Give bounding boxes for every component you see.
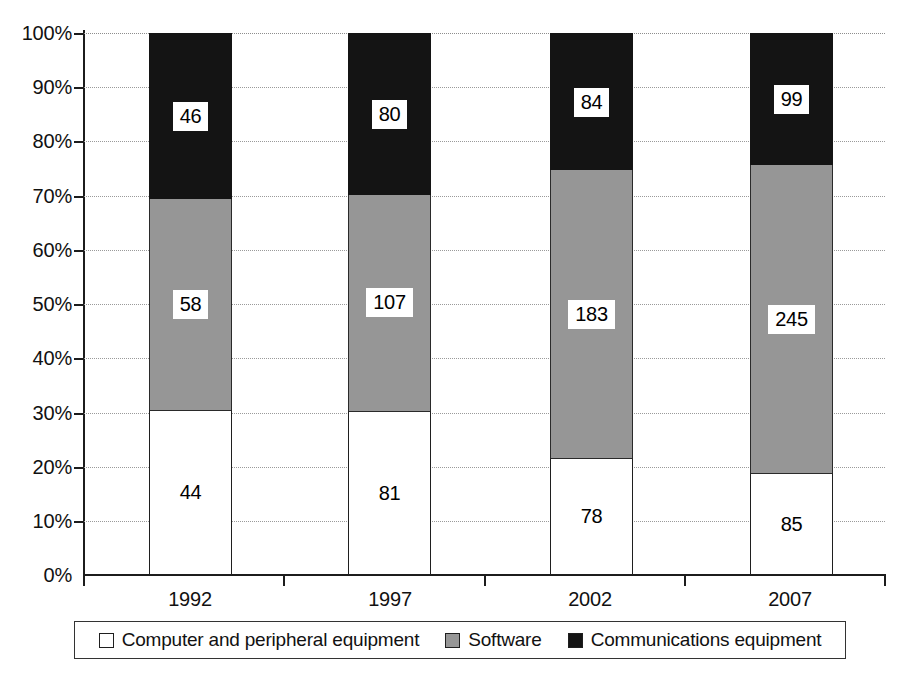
bar-segment-computer[interactable]: 44 [149, 410, 232, 575]
segment-value-label: 99 [774, 85, 810, 114]
y-axis-tick [74, 33, 83, 35]
segment-value-label: 80 [372, 100, 408, 129]
chart-legend: Computer and peripheral equipment Softwa… [74, 621, 846, 659]
segment-value-label: 245 [768, 305, 814, 334]
segment-value-label: 107 [366, 288, 412, 317]
y-axis-tick-label: 80% [4, 131, 72, 151]
y-axis-tick [74, 521, 83, 523]
bar-segment-software[interactable]: 58 [149, 199, 232, 410]
x-axis-label-2002: 2002 [510, 587, 670, 611]
bar-segment-computer[interactable]: 78 [550, 458, 633, 575]
bar-segment-software[interactable]: 107 [348, 195, 431, 411]
y-axis-tick-label: 0% [4, 565, 72, 585]
y-axis-tick [74, 304, 83, 306]
legend-swatch-black-icon [568, 633, 583, 648]
segment-value-label: 81 [379, 482, 401, 504]
y-axis-tick-label: 40% [4, 348, 72, 368]
y-axis-tick-label: 10% [4, 511, 72, 531]
y-axis-labels: 100% 90% 80% 70% 60% 50% 40% 30% 20% 10%… [0, 0, 72, 688]
bar-segment-communications[interactable]: 46 [149, 33, 232, 199]
legend-item-computer[interactable]: Computer and peripheral equipment [99, 629, 420, 651]
x-axis-tick [83, 575, 85, 586]
segment-value-label: 46 [173, 102, 209, 131]
bar-2002[interactable]: 84 183 78 [550, 33, 633, 575]
y-axis-tick-label: 20% [4, 457, 72, 477]
y-axis-tick [74, 141, 83, 143]
bar-segment-communications[interactable]: 84 [550, 33, 633, 170]
legend-swatch-white-icon [99, 633, 114, 648]
segment-value-label: 44 [180, 481, 202, 503]
y-axis-tick-label: 50% [4, 294, 72, 314]
bar-segment-communications[interactable]: 80 [348, 33, 431, 195]
stacked-bar-chart: 100% 90% 80% 70% 60% 50% 40% 30% 20% 10%… [0, 0, 919, 688]
legend-label: Software [468, 629, 541, 651]
y-axis-tick [74, 413, 83, 415]
legend-item-communications[interactable]: Communications equipment [568, 629, 822, 651]
x-axis-tick [283, 575, 285, 586]
y-axis-tick [74, 467, 83, 469]
y-axis-tick-label: 70% [4, 186, 72, 206]
x-axis-label-1997: 1997 [310, 587, 470, 611]
bar-1992[interactable]: 46 58 44 [149, 33, 232, 575]
y-axis-tick [74, 196, 83, 198]
bar-2007[interactable]: 99 245 85 [750, 33, 833, 575]
bar-segment-computer[interactable]: 85 [750, 473, 833, 575]
segment-value-label: 78 [581, 505, 603, 527]
plot-area: 46 58 44 80 107 81 84 [84, 33, 885, 575]
x-axis-tick [484, 575, 486, 586]
y-axis-tick [74, 87, 83, 89]
segment-value-label: 85 [781, 513, 803, 535]
x-axis-tick [884, 575, 886, 586]
y-axis-tick [74, 250, 83, 252]
legend-label: Computer and peripheral equipment [122, 629, 420, 651]
y-axis-tick-label: 30% [4, 403, 72, 423]
legend-swatch-gray-icon [445, 633, 460, 648]
bar-segment-communications[interactable]: 99 [750, 33, 833, 165]
y-axis-tick-label: 100% [4, 23, 72, 43]
segment-value-label: 84 [574, 88, 610, 117]
bar-segment-software[interactable]: 245 [750, 165, 833, 473]
x-axis-label-1992: 1992 [110, 587, 270, 611]
bar-1997[interactable]: 80 107 81 [348, 33, 431, 575]
y-axis-tick-label: 90% [4, 77, 72, 97]
x-axis-tick [684, 575, 686, 586]
bar-segment-computer[interactable]: 81 [348, 411, 431, 575]
y-axis-tick [74, 358, 83, 360]
segment-value-label: 58 [173, 290, 209, 319]
legend-label: Communications equipment [591, 629, 822, 651]
y-axis-tick-label: 60% [4, 240, 72, 260]
legend-item-software[interactable]: Software [445, 629, 541, 651]
bar-segment-software[interactable]: 183 [550, 170, 633, 458]
segment-value-label: 183 [568, 300, 614, 329]
x-axis-label-2007: 2007 [710, 587, 870, 611]
